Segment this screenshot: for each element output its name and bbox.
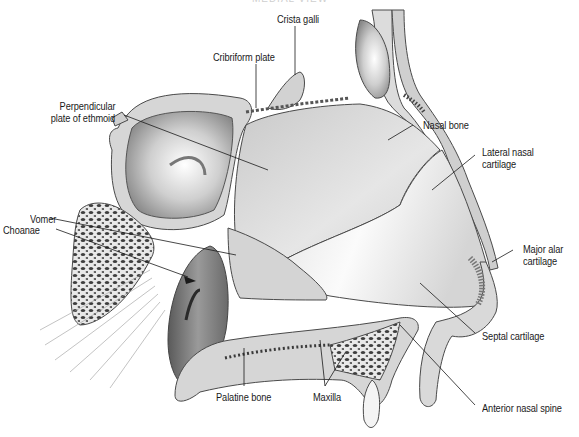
label-lateral-nasal-cartilage-line1: Lateral nasal <box>482 146 534 158</box>
label-nasal-bone: Nasal bone <box>423 119 469 131</box>
label-maxilla: Maxilla <box>313 391 341 403</box>
label-anterior-nasal-spine: Anterior nasal spine <box>482 402 562 414</box>
label-perpendicular-plate-line2: plate of ethmoid <box>51 112 115 124</box>
label-major-alar-cartilage-line1: Major alar <box>523 243 563 255</box>
crista-galli-shape <box>268 72 305 110</box>
anatomy-illustration <box>0 0 579 437</box>
sphenoid-sinus <box>110 94 252 230</box>
label-septal-cartilage: Septal cartilage <box>482 330 544 342</box>
label-choanae: Choanae <box>3 224 40 236</box>
label-cribriform-plate: Cribriform plate <box>213 51 275 63</box>
label-lateral-nasal-cartilage-line2: cartilage <box>482 158 516 170</box>
label-perpendicular-plate-line1: Perpendicular <box>59 100 115 112</box>
nasal-septum-diagram: MEDIAL VIEW <box>0 0 579 437</box>
label-crista-galli: Crista galli <box>277 13 319 25</box>
label-palatine-bone: Palatine bone <box>216 391 271 403</box>
label-major-alar-cartilage-line2: cartilage <box>523 255 557 267</box>
